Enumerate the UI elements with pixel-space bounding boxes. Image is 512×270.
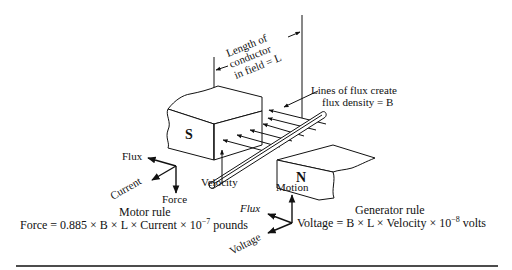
motor-rule-axes: Flux Current Force [108,150,187,205]
length-label: Length of conductor in field = L [224,31,283,80]
magnet-conductor-diagram: Length of conductor in field = L S N Lin… [0,0,512,270]
motor-rule-title: Motor rule [119,205,171,219]
motor-rule-formula: Force = 0.885 × B × L × Current × 10−7 p… [20,217,248,232]
motor-force-label: Force [162,193,187,205]
south-pole-label: S [185,127,193,142]
generator-rule-formula: Voltage = B × L × Velocity × 10−8 volts [297,215,486,230]
generator-flux-label: Flux [239,202,260,214]
velocity-label: Velocity [201,176,238,188]
generator-rule-title: Generator rule [355,203,425,217]
motor-current-label: Current [108,175,143,202]
motion-label: Motion [276,181,309,193]
motor-flux-label: Flux [122,150,143,162]
south-magnet: S [167,86,262,160]
generator-voltage-axis-label: Voltage [227,230,262,256]
flux-label-line2: flux density = B [322,96,393,108]
flux-label-line1: Lines of flux create [311,84,397,96]
